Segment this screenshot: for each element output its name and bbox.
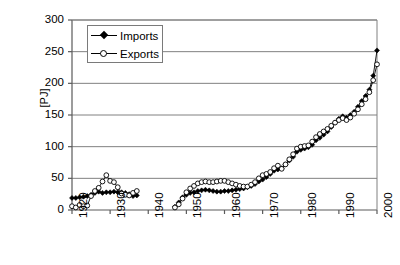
data-point-exports — [306, 143, 311, 148]
data-point-exports — [176, 202, 181, 207]
y-tick-label: 0 — [20, 203, 64, 215]
data-point-exports — [104, 173, 109, 178]
data-point-exports — [89, 194, 94, 199]
y-tick-label: 50 — [20, 171, 64, 183]
y-tick-label: 200 — [20, 76, 64, 88]
data-point-exports — [352, 111, 357, 116]
data-point-exports — [112, 180, 117, 185]
chart-container: [PJ] 050100150200250300 1920193019401950… — [0, 0, 400, 265]
y-tick-label: 300 — [20, 13, 64, 25]
series-line-exports — [175, 64, 377, 207]
data-point-exports — [367, 90, 372, 95]
data-point-exports — [134, 189, 139, 194]
x-tick-label: 1980 — [306, 192, 318, 218]
x-tick-label: 1960 — [230, 192, 242, 218]
data-point-exports — [375, 62, 380, 67]
data-point-exports — [348, 115, 353, 120]
imports-marker-icon — [91, 30, 117, 41]
legend-label-imports: Imports — [120, 30, 158, 42]
data-point-exports — [279, 166, 284, 171]
data-point-exports — [291, 152, 296, 157]
data-point-exports — [371, 78, 376, 83]
exports-marker-icon — [91, 48, 117, 59]
x-tick-label: 1920 — [77, 192, 89, 218]
legend-item-imports: Imports — [91, 26, 158, 45]
data-point-exports — [359, 102, 364, 107]
data-point-exports — [287, 157, 292, 162]
data-point-exports — [180, 196, 185, 201]
data-point-exports — [268, 170, 273, 175]
data-point-exports — [100, 179, 105, 184]
data-point-exports — [96, 185, 101, 190]
chart-plot-area — [0, 0, 400, 265]
data-point-exports — [115, 185, 120, 190]
legend-label-exports: Exports — [120, 48, 159, 60]
data-point-exports — [253, 180, 258, 185]
data-point-exports — [310, 139, 315, 144]
x-tick-label: 1950 — [191, 192, 203, 218]
x-tick-label: 1930 — [115, 192, 127, 218]
data-point-exports — [356, 107, 361, 112]
x-tick-label: 1990 — [344, 192, 356, 218]
chart-legend: Imports Exports — [87, 25, 163, 63]
x-tick-label: 1970 — [268, 192, 280, 218]
data-point-exports — [363, 97, 368, 102]
data-point-exports — [184, 190, 189, 195]
y-tick-label: 250 — [20, 45, 64, 57]
x-tick-label: 1940 — [153, 192, 165, 218]
y-tick-label: 100 — [20, 140, 64, 152]
data-point-exports — [283, 162, 288, 167]
x-tick-label: 2000 — [382, 192, 394, 218]
y-tick-label: 150 — [20, 108, 64, 120]
legend-item-exports: Exports — [91, 44, 159, 63]
